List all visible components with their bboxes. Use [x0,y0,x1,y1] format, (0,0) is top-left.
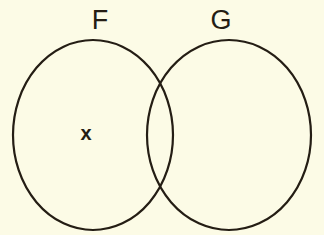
set-label-g: G [210,5,231,35]
venn-diagram-canvas: F G x [0,0,324,235]
element-mark-x: x [80,122,91,144]
set-label-f: F [92,5,109,35]
figure-background [0,0,324,235]
venn-diagram-figure: F G x [0,0,324,235]
